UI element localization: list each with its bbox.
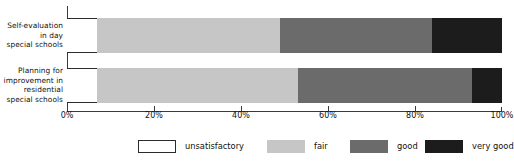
bar-segment-unsatisfactory[interactable] bbox=[67, 68, 97, 103]
category-label-line: special schools bbox=[0, 95, 63, 105]
x-axis-tick-label: 80% bbox=[406, 111, 424, 120]
chart-legend: unsatisfactoryfairgoodvery good bbox=[0, 139, 514, 155]
legend-label: fair bbox=[314, 141, 328, 151]
category-label-line: improvement in bbox=[0, 76, 63, 86]
bar-segment-good[interactable] bbox=[280, 18, 432, 53]
bar-segment-fair[interactable] bbox=[97, 68, 297, 103]
legend-label: very good bbox=[472, 141, 514, 151]
category-label-planning-for-improvement: Planning forimprovement inresidentialspe… bbox=[0, 66, 63, 104]
legend-swatch-unsatisfactory bbox=[138, 140, 176, 153]
category-label-line: Self-evaluation bbox=[0, 21, 63, 31]
bar-segment-very-good[interactable] bbox=[432, 18, 502, 53]
legend-swatch-good bbox=[350, 140, 388, 153]
category-label-line: special schools bbox=[0, 40, 63, 50]
bar-segment-unsatisfactory[interactable] bbox=[67, 18, 97, 53]
x-axis-tick-label: 0% bbox=[61, 111, 74, 120]
bar-segment-good[interactable] bbox=[298, 68, 472, 103]
legend-item-very-good[interactable]: very good bbox=[425, 139, 514, 153]
plot-area bbox=[67, 6, 502, 112]
stacked-bar-chart: Self-evaluationin dayspecial schools Pla… bbox=[0, 0, 514, 163]
x-axis-tick-label: 60% bbox=[319, 111, 337, 120]
x-axis-tick-label: 40% bbox=[232, 111, 250, 120]
legend-swatch-fair bbox=[267, 140, 305, 153]
legend-label: unsatisfactory bbox=[185, 141, 244, 151]
legend-swatch-very-good bbox=[425, 140, 463, 153]
category-label-line: in day bbox=[0, 31, 63, 41]
legend-item-unsatisfactory[interactable]: unsatisfactory bbox=[138, 139, 244, 153]
category-label-line: Planning for bbox=[0, 66, 63, 76]
bar-segment-very-good[interactable] bbox=[472, 68, 502, 103]
x-axis-line bbox=[67, 111, 502, 112]
category-label-line: residential bbox=[0, 85, 63, 95]
legend-item-good[interactable]: good bbox=[350, 139, 418, 153]
x-axis-tick-label: 100% bbox=[491, 111, 514, 120]
category-label-self-evaluation: Self-evaluationin dayspecial schools bbox=[0, 21, 63, 50]
legend-label: good bbox=[397, 141, 418, 151]
legend-item-fair[interactable]: fair bbox=[267, 139, 328, 153]
x-axis-tick-label: 20% bbox=[145, 111, 163, 120]
bar-segment-fair[interactable] bbox=[97, 18, 280, 53]
